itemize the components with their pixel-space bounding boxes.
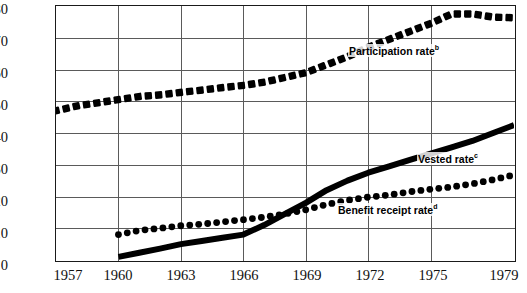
x-tick-1975: 1975	[419, 268, 448, 283]
y-tick-20: 20	[0, 194, 8, 209]
series-participation-rate	[56, 10, 513, 115]
x-tick-1960: 1960	[104, 268, 133, 283]
plot-area	[55, 5, 516, 262]
benefit-footnote-marker: d	[433, 203, 437, 210]
x-tick-1972: 1972	[356, 268, 385, 283]
y-tick-10: 10	[0, 226, 8, 241]
series-label-participation-rate: Participation rateb	[348, 44, 440, 57]
y-tick-80: 80	[0, 2, 8, 17]
y-tick-60: 60	[0, 66, 8, 81]
y-tick-70: 70	[0, 34, 8, 49]
participation-footnote-marker: b	[435, 44, 439, 51]
y-tick-30: 30	[0, 162, 8, 177]
vested-label-text: Vested rate	[418, 153, 474, 165]
chart-container: percent 0 10 20 30 40 50 60 70 80 1957 1…	[0, 0, 527, 293]
x-tick-1969: 1969	[293, 268, 322, 283]
x-tick-1957: 1957	[54, 268, 83, 283]
vested-footnote-marker: c	[474, 152, 478, 159]
series-label-benefit-receipt-rate: Benefit receipt rated	[337, 203, 438, 216]
y-tick-50: 50	[0, 98, 8, 113]
series-label-vested-rate: Vested ratec	[417, 152, 479, 165]
series-vested-rate	[118, 125, 514, 257]
y-tick-0: 0	[1, 258, 8, 273]
data-series-layer	[56, 6, 514, 260]
participation-label-text: Participation rate	[349, 45, 435, 57]
y-tick-40: 40	[0, 130, 8, 145]
benefit-label-text: Benefit receipt rate	[338, 204, 433, 216]
x-tick-1979: 1979	[490, 268, 519, 283]
x-tick-1966: 1966	[230, 268, 259, 283]
x-tick-1963: 1963	[167, 268, 196, 283]
series-benefit-receipt-rate	[115, 173, 513, 238]
